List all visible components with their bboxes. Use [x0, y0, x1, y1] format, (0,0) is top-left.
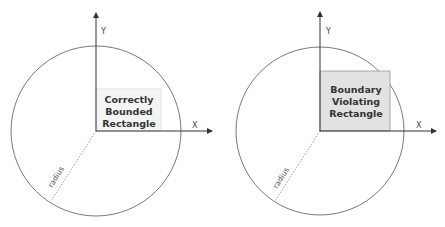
- left-y-axis-label: Y: [100, 27, 106, 36]
- right-rect-label-line-3: Rectangle: [329, 108, 383, 119]
- left-rect-label-line-1: Correctly: [105, 94, 155, 105]
- right-rect-label-line-1: Boundary: [330, 84, 382, 95]
- right-radius-line: [275, 131, 320, 201]
- right-y-axis-label: Y: [325, 27, 331, 36]
- left-rect-label-line-3: Rectangle: [102, 118, 156, 129]
- left-rect-label-line-2: Bounded: [105, 106, 152, 117]
- right-radius-label: radius: [271, 166, 291, 191]
- right-rect-label-line-2: Violating: [332, 96, 380, 107]
- right-x-axis-label: X: [416, 121, 422, 130]
- left-diagram: Correctly Bounded Rectangle Y X radius: [11, 13, 212, 216]
- left-x-axis-label: X: [192, 121, 198, 130]
- left-radius-label: radius: [46, 165, 66, 190]
- right-diagram: Boundary Violating Rectangle Y X radius: [236, 12, 436, 215]
- diagram-canvas: Correctly Bounded Rectangle Y X radius B…: [0, 0, 445, 227]
